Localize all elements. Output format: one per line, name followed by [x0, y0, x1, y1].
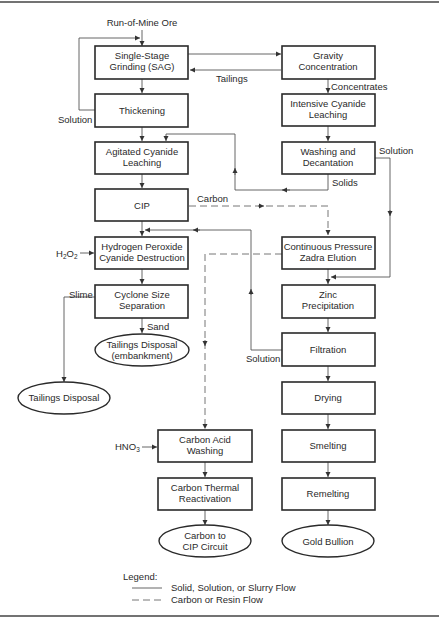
node-smelting: Smelting: [282, 430, 375, 462]
node-label: Washing and: [300, 146, 355, 157]
input-label-h2o2: H2O2: [56, 248, 78, 260]
node-label: Gold Bullion: [302, 536, 353, 547]
node-carbon-acid-washing: Carbon Acid Washing: [158, 430, 252, 462]
edge-label-slime: Slime: [69, 289, 93, 300]
edge-label-sand: Sand: [147, 321, 169, 332]
node-label: Intensive Cyanide: [290, 98, 366, 109]
node-label: Tailings Disposal: [29, 392, 100, 403]
legend-title: Legend:: [123, 571, 157, 582]
edge-label-solids: Solids: [332, 177, 358, 188]
edge-label-solution-filtration: Solution: [246, 353, 280, 364]
edge-label-solution-washing: Solution: [379, 145, 413, 156]
node-label: Concentration: [298, 61, 357, 72]
node-label: Continuous Pressure: [284, 241, 373, 252]
svg-text:H2O2: H2O2: [56, 248, 78, 260]
node-remelting: Remelting: [282, 478, 375, 510]
node-label: CIP: [134, 200, 150, 211]
node-thickening: Thickening: [95, 94, 188, 127]
node-label: (embankment): [111, 350, 172, 361]
process-flow-diagram: Single-Stage Grinding (SAG) Thickening A…: [0, 0, 439, 621]
node-tailings-embankment: Tailings Disposal (embankment): [95, 334, 189, 366]
node-label: Decantation: [303, 157, 354, 168]
node-label: Leaching: [309, 109, 348, 120]
node-tailings-disposal: Tailings Disposal: [18, 382, 110, 414]
node-label: Cyanide Destruction: [99, 252, 185, 263]
node-label: Drying: [314, 392, 341, 403]
node-label: Smelting: [310, 440, 347, 451]
node-label: Remelting: [307, 488, 350, 499]
node-carbon-to-cip: Carbon to CIP Circuit: [159, 525, 251, 557]
node-zadra-elution: Continuous Pressure Zadra Elution: [282, 237, 375, 269]
legend-dashed-label: Carbon or Resin Flow: [171, 594, 263, 605]
flow-slime: [64, 297, 95, 382]
node-zinc-precipitation: Zinc Precipitation: [282, 285, 375, 318]
edge-label-solution-thickening: Solution: [58, 114, 92, 125]
node-label: Carbon Acid: [179, 434, 231, 445]
node-cyclone-separation: Cyclone Size Separation: [95, 285, 188, 318]
node-filtration: Filtration: [282, 333, 375, 366]
flow-carbon-to-acid-wash: [205, 254, 282, 429]
node-label: Carbon to: [184, 530, 226, 541]
node-drying: Drying: [282, 382, 375, 414]
input-label-hno3: HNO3: [115, 441, 140, 453]
legend: Legend: Solid, Solution, or Slurry Flow …: [123, 571, 296, 605]
node-label: Gravity: [313, 50, 343, 61]
legend-solid-label: Solid, Solution, or Slurry Flow: [171, 582, 296, 593]
node-label: Cyclone Size: [114, 289, 169, 300]
flow-carbon-to-zadra: [189, 206, 328, 235]
input-label-ore: Run-of-Mine Ore: [107, 17, 178, 28]
node-agitated-leaching: Agitated Cyanide Leaching: [95, 142, 188, 174]
edge-label-concentrates: Concentrates: [331, 81, 388, 92]
node-label: Single-Stage: [115, 50, 169, 61]
node-gravity-concentration: Gravity Concentration: [282, 46, 375, 79]
node-label: Carbon Thermal: [171, 482, 239, 493]
node-label: Thickening: [119, 105, 165, 116]
node-label: Separation: [119, 300, 165, 311]
node-label: CIP Circuit: [182, 541, 228, 552]
node-washing-decantation: Washing and Decantation: [282, 142, 375, 174]
node-gold-bullion: Gold Bullion: [282, 525, 374, 557]
node-label: Agitated Cyanide: [106, 146, 178, 157]
node-label: Filtration: [310, 344, 346, 355]
node-carbon-thermal-reactivation: Carbon Thermal Reactivation: [158, 478, 252, 510]
node-label: Reactivation: [179, 493, 231, 504]
node-intensive-leaching: Intensive Cyanide Leaching: [282, 94, 375, 126]
node-label: Zadra Elution: [300, 252, 357, 263]
node-label: Grinding (SAG): [110, 61, 175, 72]
node-label: Precipitation: [302, 300, 354, 311]
node-label: Leaching: [123, 157, 162, 168]
svg-text:HNO3: HNO3: [115, 441, 140, 453]
node-label: Washing: [187, 445, 224, 456]
node-cip: CIP: [95, 189, 188, 221]
node-label: Hydrogen Peroxide: [101, 241, 182, 252]
node-label: Zinc: [319, 289, 337, 300]
edge-label-carbon: Carbon: [197, 193, 228, 204]
edge-label-tailings: Tailings: [216, 73, 248, 84]
node-peroxide-destruction: Hydrogen Peroxide Cyanide Destruction: [95, 237, 188, 269]
node-sag: Single-Stage Grinding (SAG): [95, 46, 188, 79]
node-label: Tailings Disposal: [107, 339, 178, 350]
